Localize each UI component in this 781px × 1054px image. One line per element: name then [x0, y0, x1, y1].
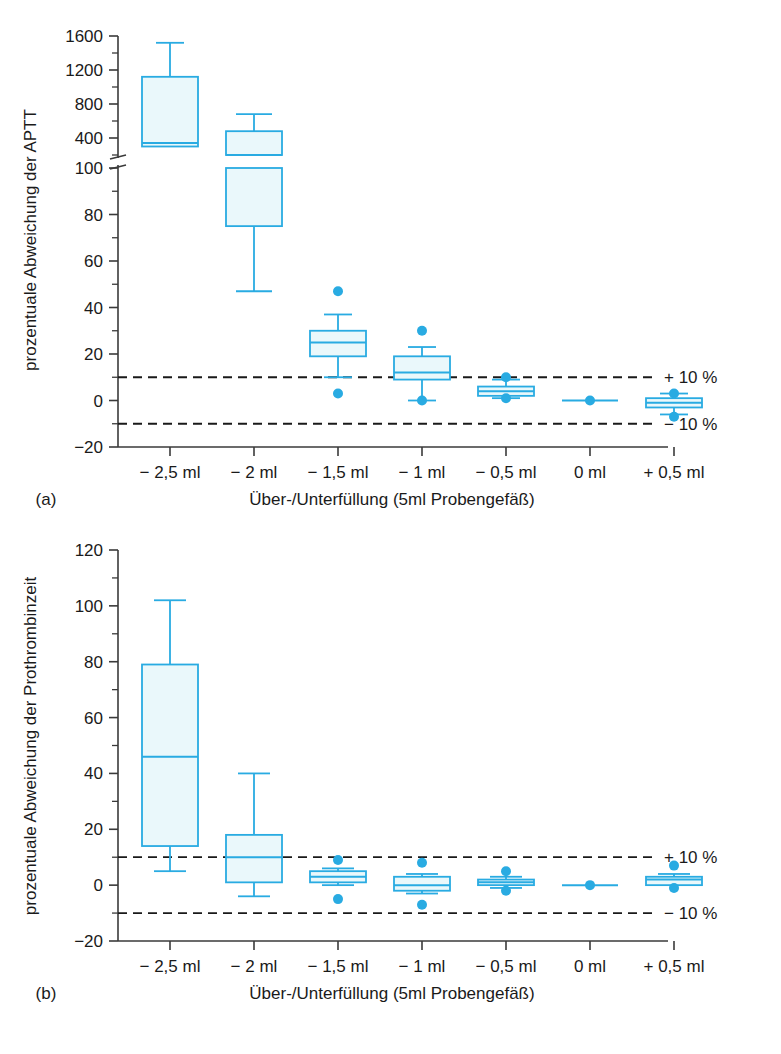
- boxplot-group: [142, 600, 198, 871]
- box-rect: [142, 665, 198, 847]
- boxplot-group: [394, 326, 450, 406]
- boxplot-group: [394, 858, 450, 910]
- box-rect: [394, 356, 450, 379]
- outlier-point: [669, 412, 679, 422]
- outlier-point: [585, 396, 595, 406]
- x-axis-title: Über-/Unterfüllung (5ml Probengefäß): [249, 984, 534, 1003]
- x-tick-label: + 0,5 ml: [644, 957, 705, 976]
- x-tick-label: − 1 ml: [399, 957, 446, 976]
- boxplot-group: [310, 286, 366, 398]
- outlier-point: [417, 858, 427, 868]
- boxplot-group: [226, 114, 282, 291]
- y-tick-label: 20: [84, 345, 103, 364]
- boxplot-group: [310, 855, 366, 904]
- outlier-point: [417, 326, 427, 336]
- x-tick-label: 0 ml: [574, 463, 606, 482]
- outlier-point: [333, 855, 343, 865]
- y-tick-label: 120: [75, 541, 103, 560]
- boxplot-svg-a: 16001200800400100806040200−20+ 10 %− 10 …: [0, 0, 781, 524]
- chart-panel-b: 120100806040200−20+ 10 %− 10 %− 2,5 ml− …: [0, 524, 781, 1054]
- y-tick-label: 1600: [65, 27, 103, 46]
- outlier-point: [417, 396, 427, 406]
- x-tick-label: + 0,5 ml: [644, 463, 705, 482]
- outlier-point: [501, 866, 511, 876]
- y-tick-label: 800: [75, 95, 103, 114]
- y-axis-title: prozentuale Abweichung der Prothrombinze…: [21, 577, 40, 916]
- outlier-point: [669, 389, 679, 399]
- y-tick-label: 60: [84, 709, 103, 728]
- y-tick-label: −20: [74, 932, 103, 951]
- box-rect-upper: [226, 131, 282, 155]
- y-tick-label: 40: [84, 764, 103, 783]
- chart-panel-a: 16001200800400100806040200−20+ 10 %− 10 …: [0, 0, 781, 524]
- y-tick-label: 400: [75, 129, 103, 148]
- x-tick-label: − 1 ml: [399, 463, 446, 482]
- y-tick-label: 1200: [65, 61, 103, 80]
- y-tick-label: 0: [94, 876, 103, 895]
- y-tick-label: 100: [75, 597, 103, 616]
- x-tick-label: − 1,5 ml: [308, 957, 369, 976]
- x-tick-label: − 0,5 ml: [476, 463, 537, 482]
- box-rect: [394, 877, 450, 891]
- y-tick-label: 60: [84, 252, 103, 271]
- x-tick-label: − 2 ml: [231, 957, 278, 976]
- reference-line-label: + 10 %: [664, 368, 717, 387]
- boxplot-svg-b: 120100806040200−20+ 10 %− 10 %− 2,5 ml− …: [0, 524, 781, 1054]
- outlier-point: [333, 894, 343, 904]
- outlier-point: [585, 880, 595, 890]
- panel-label-b: (b): [36, 984, 57, 1003]
- boxplot-group: [226, 773, 282, 896]
- box-rect: [142, 77, 198, 147]
- x-tick-label: − 2 ml: [231, 463, 278, 482]
- outlier-point: [333, 286, 343, 296]
- y-tick-label: 80: [84, 653, 103, 672]
- y-tick-label: −20: [74, 438, 103, 457]
- outlier-point: [333, 389, 343, 399]
- outlier-point: [669, 883, 679, 893]
- y-axis-title: prozentuale Abweichung der APTT: [21, 109, 40, 371]
- outlier-point: [501, 372, 511, 382]
- outlier-point: [501, 886, 511, 896]
- x-tick-label: − 2,5 ml: [140, 463, 201, 482]
- box-rect-lower: [226, 168, 282, 226]
- figure-root: 16001200800400100806040200−20+ 10 %− 10 …: [0, 0, 781, 1054]
- boxplot-group: [478, 866, 534, 896]
- x-tick-label: − 0,5 ml: [476, 957, 537, 976]
- x-axis-title: Über-/Unterfüllung (5ml Probengefäß): [249, 490, 534, 509]
- x-tick-label: − 1,5 ml: [308, 463, 369, 482]
- boxplot-group: [562, 396, 618, 406]
- panel-label-a: (a): [36, 490, 57, 509]
- reference-line-label: − 10 %: [664, 904, 717, 923]
- boxplot-group: [562, 880, 618, 890]
- y-tick-label: 80: [84, 206, 103, 225]
- y-tick-label: 40: [84, 299, 103, 318]
- box-rect: [226, 835, 282, 882]
- outlier-point: [501, 393, 511, 403]
- y-tick-label: 20: [84, 820, 103, 839]
- x-tick-label: 0 ml: [574, 957, 606, 976]
- outlier-point: [669, 861, 679, 871]
- y-tick-label: 0: [94, 392, 103, 411]
- box-rect: [310, 331, 366, 357]
- y-tick-label: 100: [75, 159, 103, 178]
- outlier-point: [417, 900, 427, 910]
- x-tick-label: − 2,5 ml: [140, 957, 201, 976]
- boxplot-group: [142, 43, 198, 147]
